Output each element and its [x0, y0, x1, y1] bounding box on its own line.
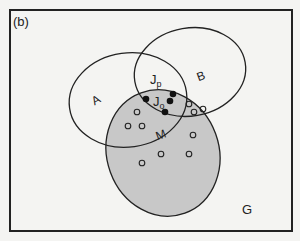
venn-diagram: (b) A B M Jp Jo G [0, 0, 300, 241]
filled-point [170, 91, 177, 98]
filled-point [167, 98, 174, 105]
filled-point [143, 96, 150, 103]
universe-label: G [242, 202, 252, 217]
panel-label: (b) [13, 14, 29, 29]
